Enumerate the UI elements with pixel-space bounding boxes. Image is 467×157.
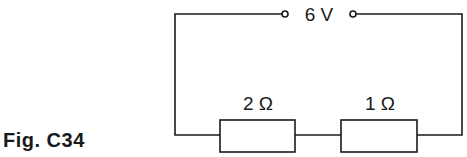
resistor-2ohm (220, 120, 295, 152)
terminal-left-icon (282, 11, 288, 17)
source-voltage-label: 6 V (305, 4, 334, 25)
wire-top-left (175, 14, 282, 135)
circuit-diagram: 6 V 2 Ω 1 Ω (0, 0, 467, 157)
wire-top-right (356, 14, 462, 135)
resistor-1ohm-label: 1 Ω (365, 93, 395, 114)
resistor-1ohm (341, 120, 417, 152)
resistor-2ohm-label: 2 Ω (243, 93, 273, 114)
terminal-right-icon (350, 11, 356, 17)
